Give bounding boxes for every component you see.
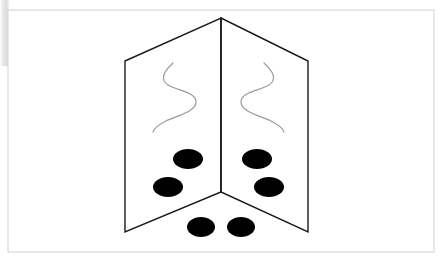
dot-right-upper — [242, 149, 272, 169]
dot-right-lower — [254, 177, 284, 197]
dot-left-lower — [153, 177, 183, 197]
figure-canvas — [0, 0, 444, 261]
figure-root — [0, 0, 444, 261]
dot-left-upper — [173, 149, 203, 169]
dot-floor-right — [227, 217, 255, 237]
dot-floor-left — [187, 217, 215, 237]
